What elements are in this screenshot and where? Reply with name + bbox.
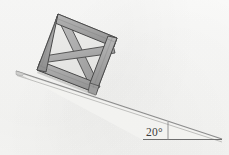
angle-label: 20°	[146, 126, 163, 138]
figure-canvas: 20°	[0, 0, 229, 155]
ramp-underside-line	[17, 76, 222, 143]
inclined-plane	[16, 71, 222, 142]
incline-crate-figure: 20°	[0, 0, 229, 155]
ramp-surface-line	[16, 71, 222, 139]
